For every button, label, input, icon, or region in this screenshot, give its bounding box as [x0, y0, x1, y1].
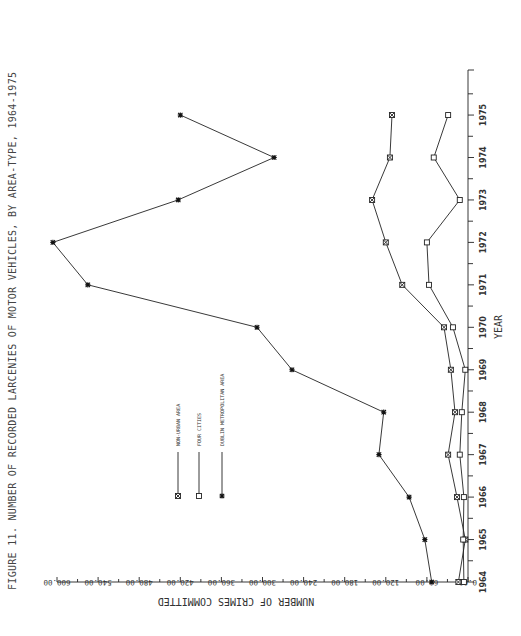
year-tick-label: 1971 [479, 273, 488, 296]
asterisk-marker-icon [381, 410, 386, 415]
square-marker-icon [463, 367, 468, 372]
year-tick-label: 1968 [479, 401, 488, 424]
year-tick-label: 1967 [479, 444, 488, 466]
value-tick-label: 60.00 [415, 578, 438, 587]
legend-item: FOUR CITIES [196, 413, 202, 499]
series-line [53, 115, 432, 582]
year-tick-label: 1975 [479, 103, 488, 126]
year-tick-label: 1973 [479, 189, 488, 211]
square-marker-icon [431, 155, 436, 160]
square-marker-icon [459, 410, 464, 415]
asterisk-marker-icon [254, 325, 259, 330]
value-tick-label: 240.00 [290, 578, 318, 587]
year-axis-label: YEAR [493, 314, 504, 339]
year-axis-ticks: 1964196519661967196819691970197119721973… [468, 94, 488, 593]
square-marker-icon [450, 325, 455, 330]
year-tick-label: 1966 [479, 486, 488, 509]
line-chart: FIGURE 11. NUMBER OF RECORDED LARCENIES … [0, 0, 521, 636]
value-axis-label: NUMBER OF CRIMES COMMITTED [158, 596, 315, 607]
value-tick-label: 300.00 [248, 578, 276, 587]
legend: NON-URBAN AREAFOUR CITIESDUBLIN METROPOL… [175, 374, 225, 499]
square-marker-icon [457, 197, 462, 202]
year-tick-label: 1964 [479, 570, 488, 593]
square-marker-icon [461, 495, 466, 500]
series-non-urban-area [370, 113, 468, 585]
year-tick-label: 1972 [479, 231, 488, 253]
square-marker-icon [197, 494, 202, 499]
value-tick-label: 120.00 [372, 578, 400, 587]
legend-item: DUBLIN METROPOLITAN AREA [219, 374, 225, 499]
legend-label: DUBLIN METROPOLITAN AREA [219, 374, 225, 446]
asterisk-marker-icon [429, 579, 434, 584]
square-marker-icon [461, 537, 466, 542]
square-marker-icon [424, 240, 429, 245]
value-tick-label: 480.00 [125, 578, 153, 587]
series-dublin-metropolitan-area [50, 112, 434, 584]
square-marker-icon [457, 452, 462, 457]
chart-title: FIGURE 11. NUMBER OF RECORDED LARCENIES … [7, 72, 18, 590]
asterisk-marker-icon [50, 240, 55, 245]
legend-label: NON-URBAN AREA [175, 404, 181, 446]
asterisk-marker-icon [178, 112, 183, 117]
year-tick-label: 1970 [479, 316, 488, 339]
asterisk-marker-icon [176, 197, 181, 202]
square-marker-icon [446, 113, 451, 118]
asterisk-marker-icon [376, 452, 381, 457]
legend-item: NON-URBAN AREA [175, 404, 181, 499]
series-line [372, 115, 465, 582]
year-tick-label: 1969 [479, 358, 488, 381]
value-axis: 0.0060.00120.00180.00240.00300.00360.004… [43, 577, 477, 607]
value-tick-label: 540.00 [84, 578, 112, 587]
value-tick-label: 600.00 [43, 578, 71, 587]
asterisk-marker-icon [85, 282, 90, 287]
square-marker-icon [426, 282, 431, 287]
year-tick-label: 1974 [479, 146, 488, 169]
year-tick-label: 1965 [479, 528, 488, 551]
asterisk-marker-icon [422, 537, 427, 542]
square-marker-icon [461, 580, 466, 585]
value-tick-label: 420.00 [166, 578, 194, 587]
value-tick-label: 360.00 [207, 578, 235, 587]
value-tick-label: 180.00 [331, 578, 359, 587]
asterisk-marker-icon [272, 155, 277, 160]
asterisk-marker-icon [219, 493, 224, 498]
year-axis: 1964196519661967196819691970197119721973… [468, 70, 504, 593]
legend-label: FOUR CITIES [196, 413, 202, 446]
series-four-cities [424, 113, 467, 585]
series-group [50, 112, 467, 584]
asterisk-marker-icon [289, 367, 294, 372]
asterisk-marker-icon [406, 495, 411, 500]
